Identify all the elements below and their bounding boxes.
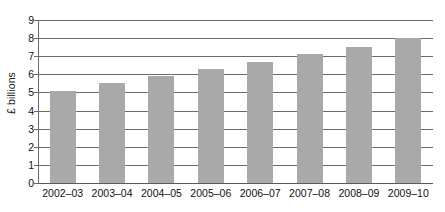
- bar: [297, 54, 323, 183]
- bar: [50, 91, 76, 183]
- x-axis-tick-label: 2007–08: [289, 187, 330, 200]
- bar: [148, 76, 174, 183]
- bar: [346, 47, 372, 183]
- bar: [99, 83, 125, 183]
- y-axis-title-label: £ billions: [5, 72, 17, 114]
- bar: [395, 38, 421, 183]
- bars-layer: [38, 20, 433, 183]
- x-axis-tick-label: 2004–05: [141, 187, 182, 200]
- x-axis-tick-label: 2003–04: [92, 187, 133, 200]
- plot-area: [38, 20, 433, 183]
- y-axis-title: £ billions: [0, 0, 22, 185]
- bar: [198, 69, 224, 183]
- x-axis-tick-label: 2002–03: [42, 187, 83, 200]
- bar-chart: £ billions 0123456789 2002–032003–042004…: [0, 0, 445, 212]
- x-axis-tick-label: 2006–07: [240, 187, 281, 200]
- x-axis-tick-label: 2005–06: [190, 187, 231, 200]
- y-axis-tick-labels: 0123456789: [20, 0, 36, 212]
- y-axis-tick-mark: [34, 183, 38, 184]
- x-axis-tick-labels: 2002–032003–042004–052005–062006–072007–…: [38, 187, 433, 207]
- x-axis-tick-label: 2008–09: [338, 187, 379, 200]
- x-axis-tick-label: 2009–10: [388, 187, 429, 200]
- bar: [247, 62, 273, 183]
- gridline: [38, 183, 433, 184]
